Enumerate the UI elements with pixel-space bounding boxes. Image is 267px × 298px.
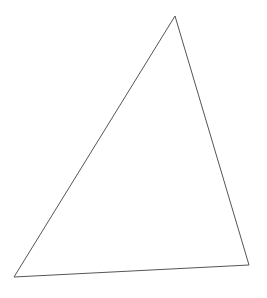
diagram-canvas (0, 0, 267, 298)
triangle-outline (14, 16, 249, 277)
triangle-figure (0, 0, 267, 298)
